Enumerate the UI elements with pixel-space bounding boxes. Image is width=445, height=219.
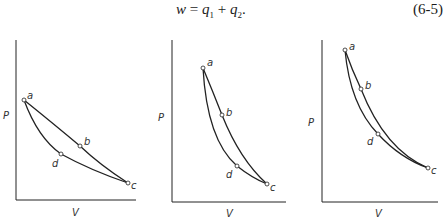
y-axis-label: P bbox=[308, 117, 315, 128]
label-c: c bbox=[270, 182, 276, 193]
point-c bbox=[426, 166, 430, 170]
label-b: b bbox=[365, 80, 371, 91]
y-axis-label: P bbox=[3, 110, 10, 121]
label-c: c bbox=[131, 180, 137, 191]
label-a: a bbox=[27, 90, 33, 101]
label-a: a bbox=[349, 41, 355, 52]
x-axis-label: V bbox=[226, 208, 234, 219]
point-d bbox=[235, 164, 239, 168]
point-d bbox=[376, 132, 380, 136]
label-d: d bbox=[52, 158, 59, 169]
label-d: d bbox=[367, 136, 374, 147]
point-a bbox=[201, 66, 205, 70]
point-b bbox=[359, 87, 363, 91]
point-d bbox=[59, 152, 63, 156]
path-a-d-c bbox=[345, 50, 428, 168]
x-axis-label: V bbox=[375, 208, 383, 219]
point-a bbox=[343, 48, 347, 52]
label-d: d bbox=[226, 169, 233, 180]
point-a bbox=[22, 98, 26, 102]
path-a-b-c bbox=[345, 50, 428, 168]
point-c bbox=[265, 182, 269, 186]
label-b: b bbox=[226, 107, 232, 118]
point-c bbox=[126, 181, 130, 185]
label-a: a bbox=[207, 57, 213, 68]
point-b bbox=[78, 144, 82, 148]
x-axis-label: V bbox=[72, 207, 80, 218]
path-a-b-c bbox=[24, 100, 128, 183]
y-axis-label: P bbox=[158, 112, 165, 123]
pv-panel-3: a b d c P V bbox=[308, 40, 438, 219]
point-b bbox=[220, 113, 224, 117]
label-c: c bbox=[431, 165, 437, 176]
label-b: b bbox=[84, 136, 90, 147]
pv-panel-2: a b d c P V bbox=[158, 40, 286, 219]
pv-panel-1: a b d c P V bbox=[3, 40, 137, 218]
pv-diagrams: a b d c P V a b d c P V a b d c P bbox=[0, 0, 445, 219]
